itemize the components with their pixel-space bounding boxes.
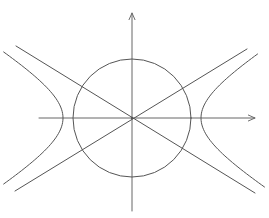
hyperbola-circle-figure (0, 0, 269, 218)
origin-point (131, 117, 133, 119)
asymptote-descending (16, 46, 255, 193)
diagram-canvas (0, 0, 269, 218)
asymptote-ascending (15, 49, 247, 191)
hyperbola-right-branch (201, 54, 265, 187)
